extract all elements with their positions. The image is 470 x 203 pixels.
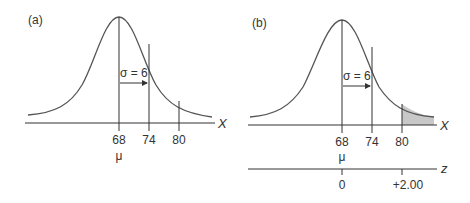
panel-b-x-axis-label: X [439,118,450,133]
panel-a: (a) X σ = 6 68 74 80 μ [25,13,228,163]
panel-b-sigma-label: σ = 6 [343,69,371,83]
panel-a-mu-label: μ [116,149,123,163]
panel-b-z-axis-label: z [440,161,448,176]
panel-a-label: (a) [28,13,43,27]
panel-a-sigma-label: σ = 6 [120,66,148,80]
panel-b-label: (b) [252,16,267,30]
panel-b-z-tick-0: 0 [339,178,346,192]
panel-a-tick-74: 74 [142,133,156,147]
panel-b: (b) X σ = 6 68 74 80 μ z 0 +2.00 [248,16,450,192]
panel-a-x-axis-label: X [217,116,228,131]
panel-b-tick-68: 68 [335,135,349,149]
panel-b-tick-80: 80 [395,135,409,149]
panel-b-tick-74: 74 [365,135,379,149]
panel-a-tick-80: 80 [172,133,186,147]
panel-b-z-tick-2: +2.00 [393,178,424,192]
normal-distribution-diagram: (a) X σ = 6 68 74 80 μ (b) X σ = 6 68 74… [0,0,470,203]
panel-a-tick-68: 68 [112,133,126,147]
panel-b-mu-label: μ [339,150,346,164]
